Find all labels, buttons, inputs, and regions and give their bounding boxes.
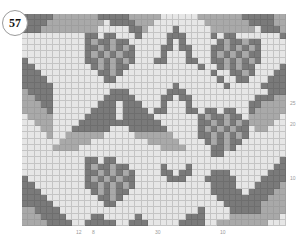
col-label: 10	[220, 229, 226, 235]
chart-cell	[280, 220, 286, 226]
row-label: 20	[290, 121, 296, 127]
colorwork-chart-grid	[22, 14, 286, 226]
col-label: 30	[155, 229, 161, 235]
chart-number-badge: 57	[2, 10, 28, 36]
col-label: 12	[76, 229, 82, 235]
row-label: 10	[290, 175, 296, 181]
row-label: 25	[290, 100, 296, 106]
col-label: 8	[92, 229, 95, 235]
